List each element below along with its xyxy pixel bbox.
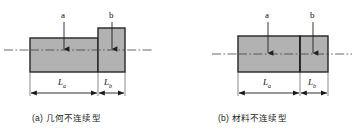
panel-b-dim-lb-sub: b bbox=[313, 83, 316, 89]
panel-b-dim-la-sub: a bbox=[268, 83, 271, 89]
panel-a-callout-b-label: b bbox=[109, 10, 114, 20]
panel-b-callout-a-label: a bbox=[265, 10, 269, 20]
figure-container: a b a b La Lb La Lb (a) 几何不连续型 (b) 材料不连续… bbox=[0, 0, 361, 132]
panel-a-dim-la-label: La bbox=[58, 77, 66, 89]
panel-b-dim-lb-label: Lb bbox=[308, 77, 316, 89]
panel-b-group bbox=[212, 22, 352, 96]
panel-a-dim-lb-label: Lb bbox=[104, 77, 112, 89]
panel-a-dim-la-sub: a bbox=[63, 83, 66, 89]
panel-b-callout-b-label: b bbox=[310, 10, 315, 20]
panel-a-group bbox=[4, 22, 152, 96]
panel-a-callout-a-label: a bbox=[61, 10, 65, 20]
panel-b-caption: (b) 材料不连续型 bbox=[218, 111, 287, 123]
panel-b-dim-la-label: La bbox=[263, 77, 271, 89]
panel-a-dim-lb-sub: b bbox=[109, 83, 112, 89]
panel-a-caption: (a) 几何不连续型 bbox=[32, 111, 101, 123]
